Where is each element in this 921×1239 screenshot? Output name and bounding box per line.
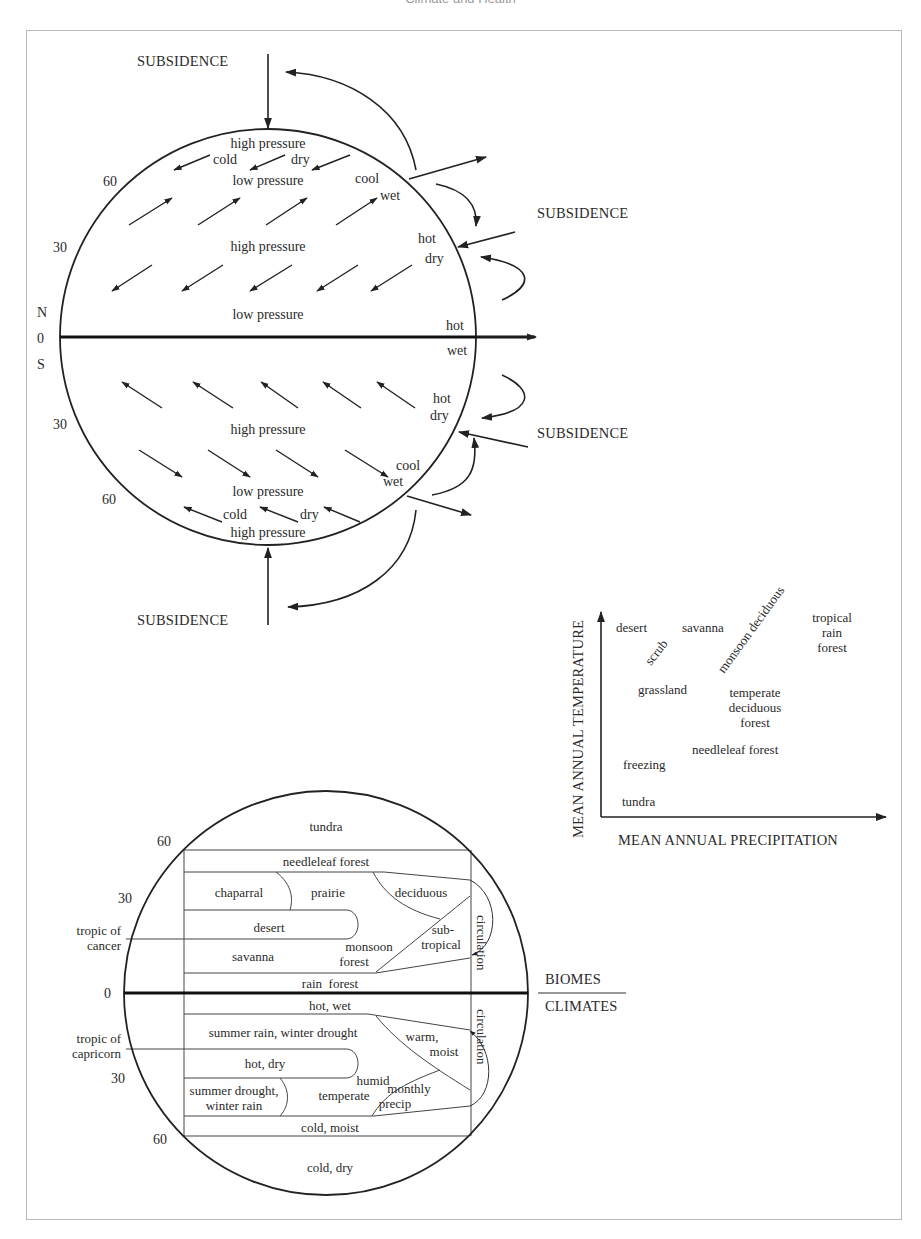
temp-precip-chart: MEAN ANNUAL TEMPERATURE MEAN ANNUAL PREC… (570, 583, 886, 848)
circulation-label-south: circulation (474, 1009, 489, 1065)
legend-climates: CLIMATES (545, 998, 618, 1014)
s-hadley-arrow (482, 375, 525, 418)
label-monsoon-deciduous: monsoon deciduous (714, 583, 787, 676)
label-tropical-2: rain (822, 625, 843, 640)
lat-n30: 30 (53, 240, 67, 255)
label-tropical-1: tropical (812, 610, 852, 625)
tropic-capricorn-1: tropic of (77, 1031, 122, 1046)
n-dry2: dry (425, 251, 444, 266)
label-temperate-3: forest (740, 715, 770, 730)
n-hadley-arrow (481, 257, 525, 300)
climate-cold-dry: cold, dry (307, 1160, 354, 1175)
biome-tundra: tundra (309, 819, 342, 834)
n-subpolar-low: low pressure (232, 173, 303, 188)
biome-monsoon-1: monsoon (345, 939, 393, 954)
south-trade-wind-arrows (122, 382, 415, 408)
legend-biomes: BIOMES (545, 971, 601, 987)
climate-monthly-1: monthly (387, 1081, 431, 1096)
n60-outflow-arrow (409, 157, 486, 179)
n-polar-high: high pressure (230, 136, 305, 151)
climate-summer-drought-2: winter rain (206, 1098, 263, 1113)
label-temperate-1: temperate (729, 685, 780, 700)
b-lat-s30: 30 (111, 1071, 125, 1086)
n-hot: hot (418, 231, 436, 246)
label-tropical-3: forest (817, 640, 847, 655)
s-subpolar-low: low pressure (232, 484, 303, 499)
bottom-return-flow-arrow (288, 510, 416, 607)
y-axis-label: MEAN ANNUAL TEMPERATURE (570, 620, 586, 838)
s-dry2: dry (300, 507, 319, 522)
climate-humid-1: humid (356, 1073, 390, 1088)
s-subtropical-high: high pressure (230, 422, 305, 437)
climate-cold-moist: cold, moist (301, 1120, 359, 1135)
climate-humid-2: temperate (318, 1088, 369, 1103)
n-wet: wet (380, 188, 400, 203)
lat-s30: 30 (53, 417, 67, 432)
south-polar-wind-arrows (184, 507, 360, 522)
biome-needleleaf: needleleaf forest (283, 854, 370, 869)
lat-s: S (37, 357, 45, 372)
climate-summer-rain: summer rain, winter drought (209, 1025, 358, 1040)
subsidence-label-south: SUBSIDENCE (537, 425, 628, 441)
s-ascending-arrow (432, 438, 475, 495)
s-subsidence-arrow (459, 432, 528, 447)
climate-summer-drought-1: summer drought, (190, 1083, 279, 1098)
n-eq-hot: hot (446, 318, 464, 333)
subsidence-label-bottom: SUBSIDENCE (137, 612, 228, 628)
climate-diagram: 60 30 N 0 S 30 60 SUBSIDENCE SUBSIDENCE … (0, 0, 921, 1239)
biome-monsoon-2: forest (339, 954, 369, 969)
s-dry: dry (430, 408, 449, 423)
n-subtropical-high: high pressure (230, 239, 305, 254)
s-polar-high: high pressure (230, 525, 305, 540)
tropic-cancer-2: cancer (87, 938, 122, 953)
label-needleleaf: needleleaf forest (692, 742, 779, 757)
lat-n: N (37, 305, 47, 320)
n-descending-arrow (436, 184, 476, 226)
biome-desert: desert (253, 920, 284, 935)
climate-hot-wet: hot, wet (309, 998, 351, 1013)
lat-n60: 60 (103, 174, 117, 189)
label-scrub: scrub (642, 636, 671, 667)
biome-deciduous: deciduous (395, 885, 448, 900)
biome-subtropical-1: sub- (432, 922, 454, 937)
biome-subtropical-2: tropical (421, 937, 461, 952)
label-desert: desert (616, 620, 647, 635)
subsidence-arrows (268, 54, 528, 625)
s-hot: hot (433, 391, 451, 406)
biome-savanna: savanna (232, 949, 274, 964)
s-cold: cold (223, 507, 247, 522)
n-equatorial-low: low pressure (232, 307, 303, 322)
s60-outflow-arrow (407, 496, 471, 515)
climate-monthly-2: precip (379, 1096, 411, 1111)
climate-warm-moist-2: moist (430, 1044, 459, 1059)
biome-prairie: prairie (311, 885, 345, 900)
b-lat-n30: 30 (118, 891, 132, 906)
n-dry: dry (291, 152, 310, 167)
label-freezing: freezing (623, 757, 666, 772)
label-tundra: tundra (622, 794, 655, 809)
s-eq-wet: wet (447, 343, 467, 358)
subsidence-label-north: SUBSIDENCE (537, 205, 628, 221)
n-subsidence-arrow (458, 232, 515, 247)
biome-climate-globe: BIOMES CLIMATES 60 30 0 30 60 tropic of … (72, 791, 626, 1195)
b-lat-n60: 60 (157, 834, 171, 849)
x-axis-label: MEAN ANNUAL PRECIPITATION (618, 832, 838, 848)
label-temperate-2: deciduous (729, 700, 782, 715)
label-savanna: savanna (682, 620, 724, 635)
n-cold: cold (213, 152, 237, 167)
lat-s60: 60 (102, 492, 116, 507)
s-cool: cool (396, 458, 420, 473)
tropic-cancer-1: tropic of (77, 923, 122, 938)
circulation-label-north: circulation (474, 915, 489, 971)
biome-chaparral: chaparral (215, 885, 264, 900)
biome-rain-forest: rain forest (302, 976, 359, 991)
tropic-capricorn-2: capricorn (72, 1046, 122, 1061)
north-trade-wind-arrows (112, 265, 412, 291)
north-polar-wind-arrows (174, 155, 350, 170)
north-westerly-wind-arrows (129, 198, 377, 225)
climate-hot-dry: hot, dry (245, 1056, 286, 1071)
label-grassland: grassland (638, 682, 688, 697)
lat-0: 0 (37, 331, 44, 346)
b-lat-s60: 60 (153, 1132, 167, 1147)
circulation-globe: 60 30 N 0 S 30 60 SUBSIDENCE SUBSIDENCE … (37, 53, 628, 628)
